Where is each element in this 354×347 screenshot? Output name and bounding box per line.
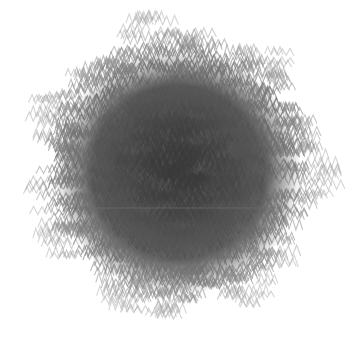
scribble-cloud [0, 0, 354, 347]
zigzag-stroke [300, 179, 318, 188]
zigzag-stroke [273, 259, 296, 268]
scribble-canvas [0, 0, 354, 347]
zigzag-stroke [294, 199, 318, 209]
zigzag-strokes [24, 10, 345, 319]
zigzag-stroke [124, 35, 145, 44]
zigzag-stroke [240, 301, 260, 308]
zigzag-stroke [38, 233, 60, 243]
zigzag-stroke [126, 306, 149, 314]
